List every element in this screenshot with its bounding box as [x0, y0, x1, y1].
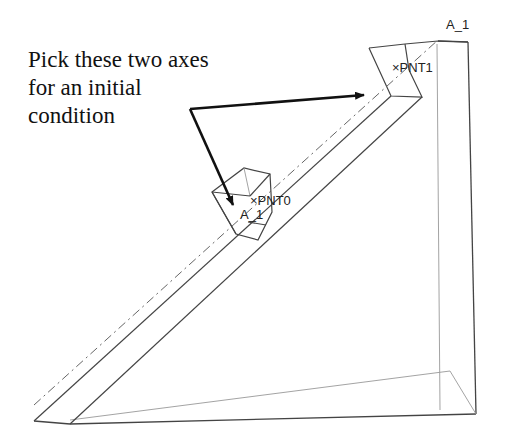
inclined-ramp: [34, 41, 468, 424]
axis-a1-line: [34, 40, 438, 405]
ramp-diagram: A_1 ×PNT1 ×PNT0 A_1: [0, 0, 512, 443]
base-plate: [34, 371, 476, 424]
axis-label-block: A_1: [240, 207, 263, 222]
point-label-pnt0: ×PNT0: [250, 193, 291, 208]
axis-label-top: A_1: [446, 17, 469, 32]
vertical-wall: [437, 41, 476, 414]
point-label-pnt1: ×PNT1: [392, 60, 433, 75]
